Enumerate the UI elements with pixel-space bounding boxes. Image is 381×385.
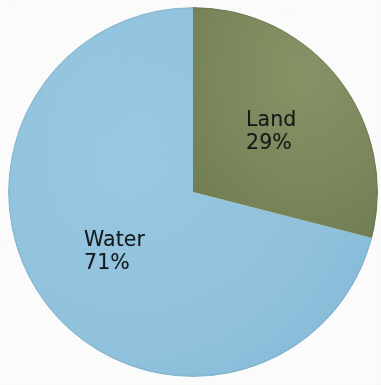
pie-label-land-name: Land (246, 108, 296, 131)
pie-label-land-value: 29% (246, 131, 296, 154)
pie-label-land: Land 29% (246, 108, 296, 154)
pie-chart-figure: Land 29% Water 71% (0, 0, 381, 385)
pie-label-water-name: Water (84, 228, 145, 251)
pie-label-water: Water 71% (84, 228, 145, 274)
pie-chart-canvas (0, 0, 381, 385)
pie-label-water-value: 71% (84, 251, 145, 274)
